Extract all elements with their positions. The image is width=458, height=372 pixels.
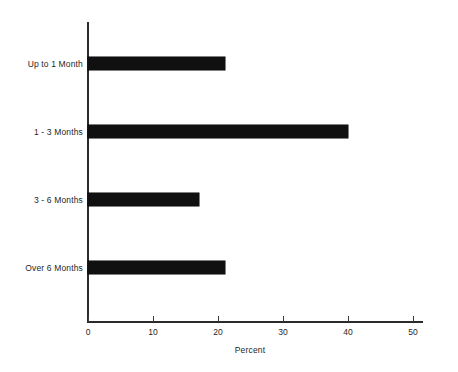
bar-3-6-months bbox=[88, 193, 199, 206]
x-tick-label-10: 10 bbox=[141, 327, 165, 337]
bar-up-to-1-month bbox=[88, 57, 225, 70]
x-tick-label-40: 40 bbox=[336, 327, 360, 337]
x-axis-tick-10 bbox=[153, 316, 154, 322]
category-label-1-3-months: 1 - 3 Months bbox=[0, 127, 83, 137]
bar-chart: Up to 1 Month 1 - 3 Months 3 - 6 Months … bbox=[0, 0, 458, 372]
plot-area: Up to 1 Month 1 - 3 Months 3 - 6 Months … bbox=[0, 0, 458, 372]
x-axis-tick-50 bbox=[413, 316, 414, 322]
x-axis-tick-30 bbox=[283, 316, 284, 322]
x-tick-label-20: 20 bbox=[206, 327, 230, 337]
category-label-up-to-1-month: Up to 1 Month bbox=[0, 59, 83, 69]
x-tick-label-50: 50 bbox=[401, 327, 425, 337]
x-axis-line bbox=[87, 321, 423, 323]
category-label-3-6-months: 3 - 6 Months bbox=[0, 195, 83, 205]
category-label-over-6-months: Over 6 Months bbox=[0, 263, 83, 273]
x-axis-title: Percent bbox=[190, 345, 310, 355]
x-axis-tick-0 bbox=[88, 316, 89, 322]
bar-1-3-months bbox=[88, 125, 348, 138]
x-tick-label-30: 30 bbox=[271, 327, 295, 337]
x-axis-tick-20 bbox=[218, 316, 219, 322]
x-axis-tick-40 bbox=[348, 316, 349, 322]
x-tick-label-0: 0 bbox=[76, 327, 100, 337]
bar-over-6-months bbox=[88, 261, 225, 274]
